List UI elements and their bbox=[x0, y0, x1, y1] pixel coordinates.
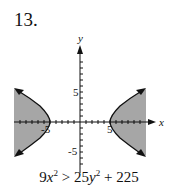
y-axis-arrow-icon bbox=[77, 45, 83, 54]
var-y: y bbox=[89, 169, 96, 185]
y-axis-label: y bbox=[77, 32, 83, 44]
x-axis-arrow-icon bbox=[148, 119, 156, 125]
y-tick-label-5: 5 bbox=[73, 86, 79, 98]
x-tick-label-5: 5 bbox=[107, 123, 113, 135]
coef-x: 9 bbox=[39, 169, 47, 185]
inequality-caption: 9x2 > 25y2 + 225 bbox=[0, 169, 178, 186]
x-axis-label: x bbox=[158, 116, 164, 128]
hyperbola-graph: y x 5 -5 -5 5 bbox=[0, 0, 178, 192]
operator: > bbox=[58, 169, 74, 185]
x-tick-label-neg5: -5 bbox=[41, 123, 51, 135]
y-tick-label-neg5: -5 bbox=[68, 145, 78, 157]
var-x: x bbox=[47, 169, 54, 185]
coef-y: 25 bbox=[74, 169, 89, 185]
constant-term: + 225 bbox=[100, 169, 138, 185]
